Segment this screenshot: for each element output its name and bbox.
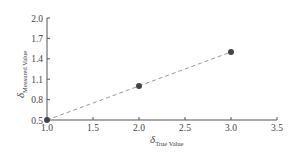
y-axis: 0.50.81.11.41.72.0: [31, 14, 50, 126]
x-axis-label: δTrue Value: [150, 133, 184, 147]
data-point-marker: [228, 49, 234, 55]
y-tick-label: 1.7: [31, 34, 43, 44]
scatter-line-chart: 0.50.81.11.41.72.0 1.01.52.02.53.03.5 δT…: [0, 0, 296, 157]
y-axis-label: δMeasured Value: [14, 51, 28, 98]
x-tick-label: 3.5: [271, 123, 283, 133]
x-tick-label: 2.5: [179, 123, 191, 133]
data-point-marker: [136, 83, 142, 89]
x-axis: 1.01.52.02.53.03.5: [41, 117, 283, 133]
x-tick-label: 3.0: [225, 123, 237, 133]
y-tick-label: 1.1: [31, 75, 43, 85]
x-tick-label: 2.0: [133, 123, 145, 133]
y-tick-label: 2.0: [31, 14, 43, 24]
data-point-marker: [44, 117, 50, 123]
y-tick-label: 1.4: [31, 54, 43, 64]
x-tick-label: 1.5: [87, 123, 99, 133]
y-tick-label: 0.8: [31, 95, 43, 105]
x-tick-label: 1.0: [41, 123, 53, 133]
data-series: [44, 49, 234, 123]
